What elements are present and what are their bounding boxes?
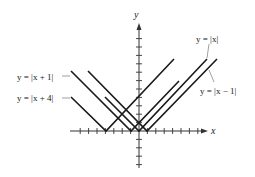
x-axis-arrow-icon (201, 129, 208, 134)
plot-lines (71, 59, 217, 131)
y-axis-label: y (133, 9, 139, 20)
line-abs-x-plus-1 (71, 71, 179, 131)
label-abs-x: y = |x| (196, 34, 218, 44)
y-axis-arrow-icon (137, 23, 142, 30)
absolute-value-graph: y x y = |x| y = |x − 1| y = |x + 1| y = … (0, 0, 255, 177)
label-abs-x-minus-1: y = |x − 1| (200, 86, 236, 96)
label-abs-x-plus-4: y = |x + 4| (17, 93, 53, 103)
chart-canvas: y x y = |x| y = |x − 1| y = |x + 1| y = … (0, 0, 255, 177)
label-abs-x-plus-1: y = |x + 1| (17, 72, 53, 82)
leader-lines (62, 44, 214, 98)
x-axis-label: x (210, 125, 216, 136)
